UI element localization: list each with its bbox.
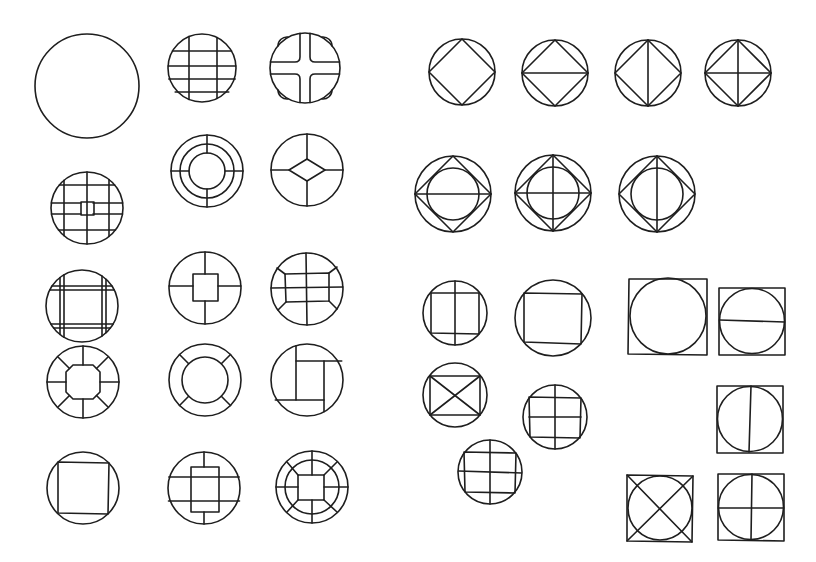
pattern-ring-diagonal-spokes <box>169 344 241 416</box>
pattern-square-circle-x <box>627 475 693 542</box>
pattern-diagram-canvas <box>0 0 816 562</box>
pattern-square-vertical-line <box>423 281 487 345</box>
pattern-square-x-diagonals <box>423 363 487 427</box>
pattern-center-diamond <box>271 134 343 206</box>
pattern-circle-grid <box>168 34 236 102</box>
pattern-square-circle-vertical <box>717 386 783 453</box>
left-pattern-group <box>35 33 348 524</box>
pattern-diamond-vertical <box>615 40 681 106</box>
pattern-inscribed-square <box>47 452 119 524</box>
right-pattern-group <box>415 39 785 542</box>
pattern-diamond-inner-circle-horizontal <box>415 156 491 232</box>
pattern-octagon-spokes <box>47 346 119 418</box>
pattern-center-square-spokes <box>169 252 241 324</box>
pattern-diamond-horizontal <box>522 40 588 106</box>
pattern-diamond <box>429 39 495 105</box>
pattern-grid-center-square <box>51 172 123 244</box>
pattern-plain-circle <box>35 34 139 138</box>
pattern-diamond-cross <box>705 40 771 106</box>
pattern-diamond-inner-circle-cross <box>515 155 591 231</box>
pattern-double-frame <box>46 270 118 342</box>
pattern-circle-grid-six <box>458 440 522 504</box>
pattern-cross-band-arcs <box>270 33 340 103</box>
pattern-square-grid-six <box>523 385 587 449</box>
pattern-square-inscribed-circle <box>628 278 707 355</box>
pattern-concentric-rings <box>171 135 243 207</box>
pattern-square-circle-cross <box>718 474 784 541</box>
pattern-rectangle-corner-diagonals <box>271 253 343 325</box>
pattern-circle-inscribed-rectangle <box>515 280 591 356</box>
pattern-rectangle-bands <box>168 452 240 524</box>
pattern-square-circle-horizontal <box>719 288 785 355</box>
pattern-diamond-inner-circle-vertical <box>619 156 695 232</box>
pattern-pinwheel-square <box>271 344 343 416</box>
pattern-double-ring-square <box>276 451 348 523</box>
